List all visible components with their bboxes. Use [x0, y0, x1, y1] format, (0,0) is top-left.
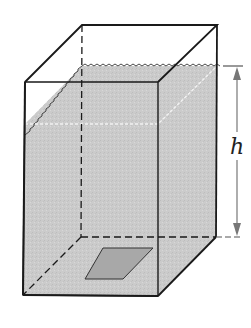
height-label: h	[230, 134, 244, 159]
water-ripple-back	[82, 64, 220, 66]
tank-diagram: h	[0, 0, 251, 328]
front-bottom-edge	[23, 295, 158, 296]
arrow-up-icon	[233, 67, 241, 80]
right-back-edge	[216, 25, 217, 237]
arrow-down-icon	[233, 223, 241, 236]
diagram-container: h	[0, 0, 251, 328]
